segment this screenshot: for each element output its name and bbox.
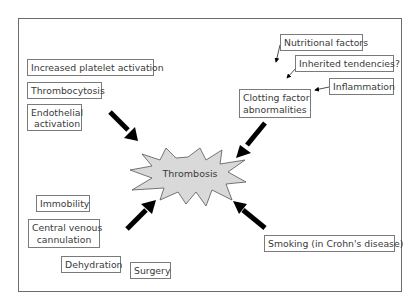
clotting-line1: Clotting factor bbox=[243, 92, 307, 104]
thrombosis-label: Thrombosis bbox=[150, 168, 230, 179]
cvc-line1: Central venous bbox=[32, 222, 96, 234]
clotting-line2: abnormalities bbox=[243, 104, 307, 116]
factor-clotting-factor-abnormalities: Clotting factor abnormalities bbox=[239, 89, 311, 118]
factor-inflammation: Inflammation bbox=[329, 78, 394, 95]
factor-increased-platelet-activation: Increased platelet activation bbox=[27, 59, 154, 76]
factor-central-venous-cannulation: Central venous cannulation bbox=[28, 219, 100, 248]
factor-dehydration: Dehydration bbox=[61, 256, 121, 273]
factor-inherited-tendencies: Inherited tendencies? bbox=[295, 55, 394, 72]
factor-surgery: Surgery bbox=[130, 262, 171, 279]
arrow-bottom-left bbox=[127, 200, 156, 229]
cvc-line2: cannulation bbox=[32, 234, 96, 246]
arrow-bottom-right bbox=[233, 201, 265, 228]
factor-immobility: Immobility bbox=[36, 195, 90, 212]
factor-nutritional-factors: Nutritional factors bbox=[280, 34, 363, 51]
arrow-inflammation bbox=[315, 87, 329, 90]
arrow-top-right bbox=[236, 123, 265, 158]
endothelial-line2: activation bbox=[31, 118, 78, 129]
endothelial-line1: Endothelial bbox=[31, 107, 78, 118]
factor-thrombocytosis: Thrombocytosis bbox=[27, 82, 102, 99]
factor-endothelial-activation: Endothelial activation bbox=[27, 104, 82, 131]
factor-smoking: Smoking (in Crohn's disease) bbox=[264, 235, 395, 252]
arrow-top-left bbox=[110, 112, 138, 141]
